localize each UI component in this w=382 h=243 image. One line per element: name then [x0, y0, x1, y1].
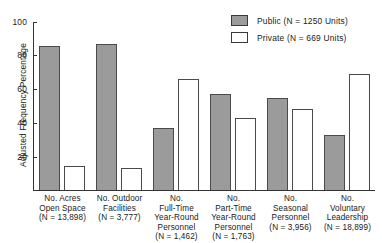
legend-swatch-public-icon: [231, 15, 248, 26]
x-axis-labels: No. Acres Open Space (N = 13,898)No. Out…: [34, 194, 376, 242]
bar-public: [324, 135, 345, 190]
legend-swatch-private-icon: [231, 32, 248, 43]
y-tick-label: 20: [17, 152, 27, 162]
bar-private: [178, 79, 199, 190]
bar-private: [235, 118, 256, 190]
bar-public: [96, 44, 117, 190]
bar-private: [349, 74, 370, 190]
bar-public: [39, 46, 60, 190]
bar-groups: [34, 22, 375, 190]
bar-private: [64, 166, 85, 190]
bar-private: [292, 109, 313, 190]
x-axis-label: No. Full-Time Year-Round Personnel (N = …: [148, 194, 205, 242]
legend: Public (N = 1250 Units) Private (N = 669…: [231, 12, 348, 46]
plot-area: 100 80 60 40 20: [33, 22, 375, 191]
bar-group: [204, 22, 261, 190]
bar-group: [261, 22, 318, 190]
x-axis-label: No. Voluntary Leadership (N = 18,899): [319, 194, 376, 242]
y-tick-label: 100: [12, 17, 27, 27]
legend-item-public: Public (N = 1250 Units): [231, 12, 348, 29]
y-axis-title: Adjusted Frequency Percentage: [18, 20, 28, 190]
bar-chart: Adjusted Frequency Percentage 100 80 60 …: [0, 0, 382, 243]
bar-public: [153, 128, 174, 190]
legend-label-private: Private (N = 669 Units): [257, 33, 347, 43]
bar-public: [267, 98, 288, 190]
y-tick-label: 60: [17, 84, 27, 94]
bar-public: [210, 94, 231, 190]
bar-group: [148, 22, 205, 190]
bar-group: [34, 22, 91, 190]
y-tick-label: 40: [17, 118, 27, 128]
legend-label-public: Public (N = 1250 Units): [257, 16, 348, 26]
bar-group: [91, 22, 148, 190]
y-tick-label: 80: [17, 50, 27, 60]
x-axis-label: No. Part-Time Year-Round Personnel (N = …: [205, 194, 262, 242]
x-axis-label: No. Acres Open Space (N = 13,898): [34, 194, 91, 242]
bar-private: [121, 168, 142, 190]
x-axis-label: No. Seasonal Personnel (N = 3,956): [262, 194, 319, 242]
bar-group: [318, 22, 375, 190]
legend-item-private: Private (N = 669 Units): [231, 29, 348, 46]
x-axis-line: [33, 190, 375, 191]
x-axis-label: No. Outdoor Facilities (N = 3,777): [91, 194, 148, 242]
